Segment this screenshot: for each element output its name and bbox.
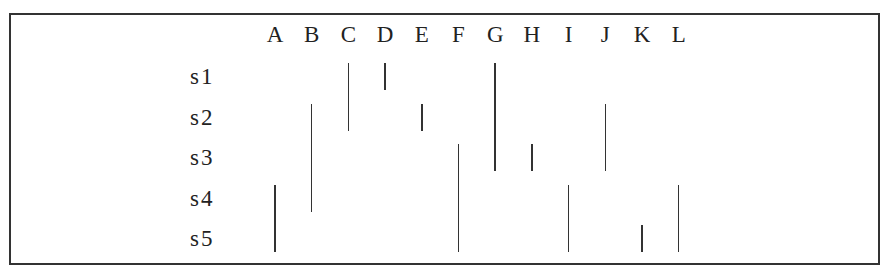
row-label-s1: s1 <box>190 64 240 90</box>
interval-line-c <box>348 63 350 131</box>
interval-line-b <box>311 104 313 212</box>
interval-line-g <box>494 63 496 171</box>
column-label-d: D <box>370 22 400 48</box>
row-label-s2: s2 <box>190 105 240 131</box>
row-label-s4: s4 <box>190 186 240 212</box>
column-label-g: G <box>480 22 510 48</box>
column-label-c: C <box>333 22 363 48</box>
column-label-i: I <box>554 22 584 48</box>
interval-line-a <box>274 185 276 252</box>
column-label-j: J <box>590 22 620 48</box>
column-label-e: E <box>407 22 437 48</box>
interval-line-f <box>458 144 460 252</box>
column-label-a: A <box>260 22 290 48</box>
diagram-frame <box>9 13 880 265</box>
column-label-h: H <box>517 22 547 48</box>
column-label-b: B <box>297 22 327 48</box>
row-label-s3: s3 <box>190 145 240 171</box>
interval-line-d <box>384 63 386 90</box>
interval-line-i <box>568 185 570 252</box>
interval-line-e <box>421 104 423 131</box>
interval-line-h <box>531 144 533 171</box>
column-label-f: F <box>444 22 474 48</box>
column-label-l: L <box>664 22 694 48</box>
interval-line-j <box>605 104 607 171</box>
interval-line-l <box>678 185 680 252</box>
interval-line-k <box>641 225 643 252</box>
column-label-k: K <box>627 22 657 48</box>
row-label-s5: s5 <box>190 226 240 252</box>
